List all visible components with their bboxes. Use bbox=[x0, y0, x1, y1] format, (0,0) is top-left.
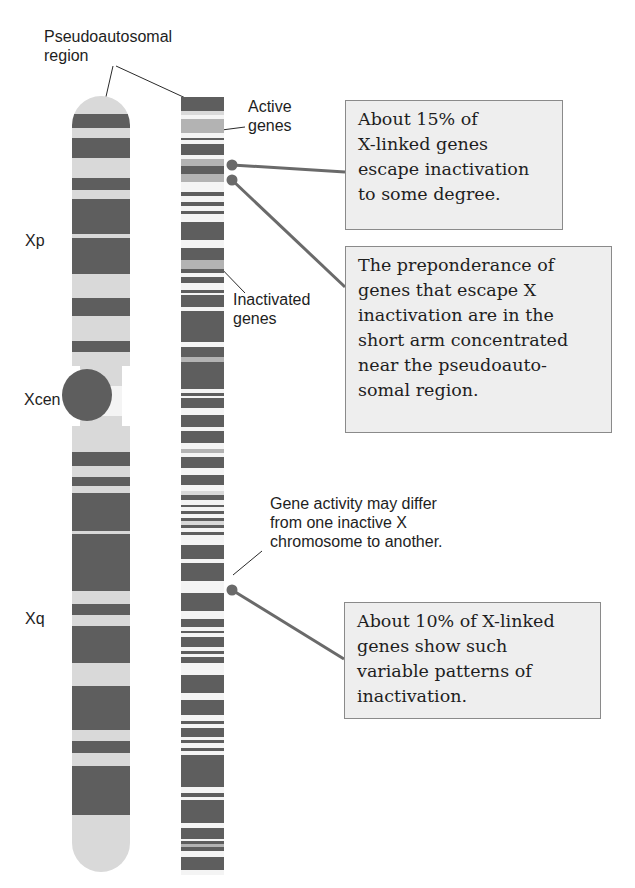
right-chromosome-band-white bbox=[181, 283, 224, 290]
box3-connector bbox=[232, 590, 344, 659]
left-chromosome-band-light bbox=[72, 128, 130, 138]
right-chromosome-band-dark bbox=[181, 144, 224, 155]
right-chromosome-band-dark bbox=[181, 800, 224, 823]
left-chromosome-band-light bbox=[72, 316, 130, 341]
right-chromosome-band-dark bbox=[181, 563, 224, 581]
left-chromosome-band-dark bbox=[72, 626, 130, 663]
right-chromosome-band-white bbox=[181, 468, 224, 475]
box3-dot bbox=[228, 586, 236, 594]
left-chromosome-band-dark bbox=[72, 686, 130, 730]
centromere bbox=[62, 369, 112, 421]
right-chromosome-band-dark bbox=[181, 675, 224, 693]
right-chromosome-band-dark bbox=[181, 755, 224, 787]
left-chromosome-band-light bbox=[72, 274, 130, 298]
pseudoautosomal-region-label: Pseudoautosomal region bbox=[44, 27, 172, 65]
xp-label: Xp bbox=[25, 231, 45, 250]
right-chromosome-band-dark bbox=[181, 431, 224, 443]
left-chromosome-band-dark bbox=[72, 534, 130, 591]
left-chromosome-band-light bbox=[72, 663, 130, 686]
right-chromosome-band-dark bbox=[181, 700, 224, 715]
box2-connector bbox=[232, 180, 345, 287]
right-chromosome-band-white bbox=[181, 240, 224, 248]
callout-variable-10-percent: About 10% of X-linked genes show such va… bbox=[344, 602, 601, 719]
right-chromosome-band-dark bbox=[181, 311, 224, 342]
left-chromosome-band-dark bbox=[72, 604, 130, 615]
left-chromosome-band-light bbox=[72, 190, 130, 199]
right-chromosome-band-dark bbox=[181, 295, 224, 307]
box2-dot bbox=[228, 176, 236, 184]
right-chromosome-band-dark bbox=[181, 828, 224, 839]
left-chromosome-band-light bbox=[72, 815, 130, 872]
box1-connector bbox=[232, 165, 345, 172]
left-chromosome-band-dark bbox=[72, 452, 130, 466]
left-chromosome-band-dark bbox=[72, 741, 130, 753]
xcen-label: Xcen bbox=[24, 390, 60, 409]
left-chromosome-band-dark bbox=[72, 341, 130, 352]
gene-inactivation-map bbox=[181, 97, 224, 875]
xq-label: Xq bbox=[25, 609, 45, 628]
right-chromosome-band-dark bbox=[181, 637, 224, 647]
right-chromosome-band-white bbox=[181, 663, 224, 675]
right-chromosome-band-dark bbox=[181, 166, 224, 174]
left-chromosome-band-light bbox=[72, 158, 130, 178]
left-chromosome-band-light bbox=[72, 466, 130, 477]
right-chromosome-band-mid bbox=[181, 119, 224, 133]
left-chromosome-band-dark bbox=[72, 298, 130, 316]
right-chromosome-band-white bbox=[181, 535, 224, 545]
right-chromosome-band-mid bbox=[181, 174, 224, 182]
right-chromosome-band-dark bbox=[181, 457, 224, 468]
active-genes-label: Active genes bbox=[248, 97, 292, 135]
gene-activity-leader bbox=[233, 551, 262, 575]
left-chromosome-band-light bbox=[72, 96, 130, 114]
gene-activity-label: Gene activity may differ from one inacti… bbox=[270, 494, 443, 551]
right-chromosome-band-white bbox=[181, 581, 224, 593]
left-chromosome-band-dark bbox=[72, 477, 130, 486]
right-chromosome-band-dark bbox=[181, 248, 224, 260]
right-chromosome-band-dark bbox=[181, 347, 224, 357]
right-chromosome-band-white bbox=[181, 611, 224, 619]
right-chromosome-band-dark bbox=[181, 415, 224, 427]
left-chromosome-band-light bbox=[72, 753, 130, 766]
right-chromosome-band-mid bbox=[181, 260, 224, 269]
inactivated-genes-label: Inactivated genes bbox=[233, 290, 310, 328]
box1-dot bbox=[228, 161, 236, 169]
left-chromosome-band-light bbox=[72, 486, 130, 493]
left-chromosome-band-dark bbox=[72, 178, 130, 190]
right-chromosome-band-dark bbox=[181, 619, 224, 627]
left-chromosome-band-dark bbox=[72, 114, 130, 128]
centromere-constriction bbox=[122, 366, 130, 426]
callout-short-arm: The preponderance of genes that escape X… bbox=[345, 246, 612, 433]
right-chromosome-band-dark bbox=[181, 222, 224, 240]
left-chromosome-band-light bbox=[72, 591, 130, 604]
left-chromosome-band-dark bbox=[72, 238, 130, 274]
callout-escape-15-percent: About 15% of X-linked genes escape inact… bbox=[345, 100, 563, 230]
left-chromosome-band-dark bbox=[72, 766, 130, 815]
right-chromosome-band-white bbox=[181, 870, 224, 875]
left-chromosome-band-dark bbox=[72, 138, 130, 158]
right-chromosome-band-mid bbox=[181, 159, 224, 166]
left-chromosome-band-light bbox=[72, 615, 130, 626]
left-chromosome-band-dark bbox=[72, 493, 130, 531]
left-chromosome-band-dark bbox=[72, 199, 130, 234]
right-chromosome-band-white bbox=[181, 408, 224, 415]
right-chromosome-band-dark bbox=[181, 728, 224, 737]
left-chromosome-band-light bbox=[72, 730, 130, 741]
right-chromosome-band-dark bbox=[181, 97, 224, 111]
right-chromosome-band-dark bbox=[181, 857, 224, 870]
x-chromosome-diagram bbox=[72, 96, 130, 872]
right-chromosome-band-dark bbox=[181, 593, 224, 611]
right-chromosome-band-dark bbox=[181, 362, 224, 389]
right-chromosome-band-dark bbox=[181, 398, 224, 408]
right-chromosome-band-white bbox=[181, 693, 224, 700]
right-chromosome-band-white bbox=[181, 214, 224, 222]
right-chromosome-band-dark bbox=[181, 545, 224, 559]
right-chromosome-band-dark bbox=[181, 475, 224, 485]
